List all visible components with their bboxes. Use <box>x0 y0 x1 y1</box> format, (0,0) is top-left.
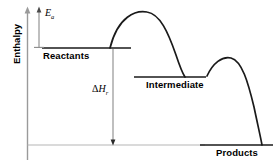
annotation-arrow-dhr <box>111 49 116 146</box>
diagram-canvas <box>0 0 275 168</box>
label-reactants: Reactants <box>43 50 89 61</box>
label-intermediate: Intermediate <box>146 79 204 90</box>
dhr-symbol: H <box>98 83 105 94</box>
y-axis-group <box>25 7 31 161</box>
annotation-arrow-ea <box>34 7 44 48</box>
label-products: Products <box>216 147 258 158</box>
ea-arrowhead-top <box>37 7 42 13</box>
label-activation-energy: Ea <box>45 7 54 20</box>
label-enthalpy-change: ΔHr <box>92 83 108 96</box>
y-axis-label: Enthalpy <box>11 24 22 64</box>
curve-hump-second <box>207 58 262 145</box>
reaction-energy-diagram: Enthalpy Reactants Intermediate Products… <box>0 0 275 168</box>
up-arrow-icon <box>25 7 31 14</box>
curve-hump-first <box>110 12 185 77</box>
dhr-subscript: r <box>106 89 109 96</box>
ea-subscript: a <box>51 13 54 20</box>
